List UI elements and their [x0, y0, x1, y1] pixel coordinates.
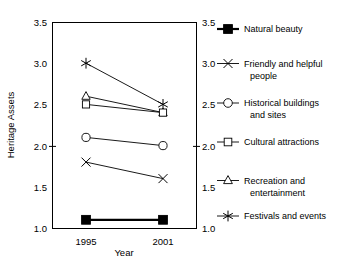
legend-marker-open-triangle — [224, 176, 233, 184]
y-right-tick-2.5: 2.5 — [202, 99, 215, 110]
marker-asterisk — [81, 58, 91, 69]
legend-item-cultural-attractions[interactable]: Cultural attractions — [217, 137, 320, 147]
legend-label: Natural beauty — [244, 24, 303, 34]
marker-open-square — [159, 109, 166, 116]
y-right-tick-1.0: 1.0 — [202, 223, 215, 234]
chart-legend: Natural beauty Friendly and helpful peop… — [217, 24, 327, 221]
y-right-tick-3.0: 3.0 — [202, 58, 215, 69]
y-left-tick-1.0: 1.0 — [34, 223, 47, 234]
legend-label: Friendly and helpful — [244, 59, 323, 69]
y-left-tick-2.0: 2.0 — [34, 141, 47, 152]
legend-marker-filled-square — [224, 25, 233, 34]
series-historical-buildings-and-sites — [82, 133, 167, 149]
series-segment — [86, 104, 163, 112]
legend-label: Recreation and — [244, 176, 305, 186]
marker-filled-square — [159, 215, 168, 224]
y-axis-title: Heritage Assets — [5, 91, 16, 158]
marker-filled-square — [82, 215, 91, 224]
y-left-tick-1.5: 1.5 — [34, 182, 47, 193]
chart-canvas: 3.5 3.0 2.5 2.0 1.5 1.0 3.5 3.0 2.5 2.0 … — [0, 0, 340, 270]
series-segment — [86, 162, 163, 179]
series-friendly-and-helpful-people — [82, 158, 168, 184]
marker-open-circle — [159, 142, 167, 150]
y-right-tick-3.5: 3.5 — [202, 17, 215, 28]
x-tick-1995: 1995 — [75, 236, 96, 247]
marker-open-triangle — [82, 92, 90, 100]
x-tick-2001: 2001 — [152, 236, 173, 247]
legend-marker-open-square — [224, 138, 232, 146]
y-left-tick-3.5: 3.5 — [34, 17, 47, 28]
series-festivals-and-events — [81, 58, 168, 110]
legend-item-natural-beauty[interactable]: Natural beauty — [217, 24, 303, 34]
x-axis-title: Year — [114, 247, 133, 258]
y-left-tick-2.5: 2.5 — [34, 99, 47, 110]
legend-item-friendly-and-helpful-people[interactable]: Friendly and helpful people — [217, 59, 323, 81]
series-cultural-attractions — [82, 101, 166, 116]
legend-item-recreation-and-entertainment[interactable]: Recreation and entertainment — [217, 176, 306, 198]
y-right-tick-1.5: 1.5 — [202, 182, 215, 193]
marker-x-cross — [159, 174, 168, 183]
marker-x-cross — [82, 158, 91, 167]
legend-label: Cultural attractions — [244, 137, 320, 147]
legend-item-historical-buildings-and-sites[interactable]: Historical buildings and sites — [217, 98, 320, 120]
marker-open-square — [82, 101, 89, 108]
legend-marker-open-circle — [224, 99, 233, 108]
line-chart: 3.5 3.0 2.5 2.0 1.5 1.0 3.5 3.0 2.5 2.0 … — [0, 0, 340, 270]
legend-label: Historical buildings — [244, 98, 320, 108]
legend-label-line2: and sites — [250, 110, 287, 120]
legend-item-festivals-and-events[interactable]: Festivals and events — [217, 211, 327, 222]
series-segment — [86, 137, 163, 145]
y-right-tick-2.0: 2.0 — [202, 141, 215, 152]
legend-label-line2: entertainment — [250, 188, 306, 198]
legend-label: Festivals and events — [244, 211, 327, 221]
marker-open-circle — [82, 133, 90, 141]
y-left-tick-3.0: 3.0 — [34, 58, 47, 69]
legend-label-line2: people — [250, 71, 277, 81]
plot-frame — [53, 23, 197, 229]
series-natural-beauty — [82, 215, 168, 224]
